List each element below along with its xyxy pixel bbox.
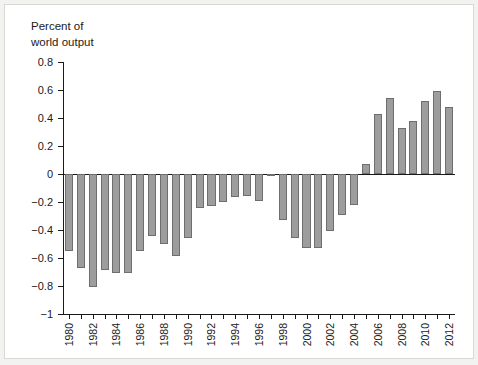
x-axis-tick <box>105 314 106 319</box>
bar <box>279 174 287 220</box>
x-axis-tick <box>295 314 296 319</box>
y-axis-line <box>63 62 64 314</box>
x-axis-tick <box>413 314 414 319</box>
x-axis-tick <box>425 314 426 319</box>
bar <box>267 174 275 176</box>
bar <box>314 174 322 248</box>
x-axis-label: 2006 <box>373 323 384 346</box>
bar <box>255 174 263 201</box>
x-axis-tick <box>283 314 284 319</box>
x-axis-tick <box>318 314 319 319</box>
bar <box>386 98 394 174</box>
x-axis-tick <box>223 314 224 319</box>
x-axis-label: 1990 <box>183 323 194 346</box>
x-axis-tick <box>378 314 379 319</box>
x-axis-tick <box>437 314 438 319</box>
y-axis-label: 0.8 <box>38 57 53 68</box>
bar <box>445 107 453 174</box>
bar <box>112 174 120 273</box>
x-axis-tick <box>81 314 82 319</box>
y-axis-tick <box>58 286 63 287</box>
x-axis-label: 1986 <box>135 323 146 346</box>
bar <box>172 174 180 256</box>
x-axis-tick <box>366 314 367 319</box>
y-axis-tick <box>58 230 63 231</box>
bar <box>374 114 382 174</box>
bar <box>136 174 144 251</box>
x-axis-tick <box>449 314 450 319</box>
x-axis-tick <box>164 314 165 319</box>
x-axis-label: 1996 <box>254 323 265 346</box>
x-axis-label: 1984 <box>111 323 122 346</box>
y-axis-label: 0.2 <box>38 141 53 152</box>
x-axis-tick <box>188 314 189 319</box>
bar <box>398 128 406 174</box>
bar <box>160 174 168 244</box>
x-axis-tick <box>176 314 177 319</box>
x-axis-tick <box>330 314 331 319</box>
x-axis-tick <box>69 314 70 319</box>
x-axis-tick <box>271 314 272 319</box>
x-axis-tick <box>390 314 391 319</box>
x-axis-tick <box>200 314 201 319</box>
x-axis-tick <box>354 314 355 319</box>
y-axis-label: 0 <box>47 169 53 180</box>
bar <box>409 121 417 174</box>
y-axis-tick <box>58 174 63 175</box>
y-axis-label: −0.4 <box>31 225 53 236</box>
bar <box>184 174 192 238</box>
y-axis-tick <box>58 258 63 259</box>
x-axis-label: 2000 <box>302 323 313 346</box>
y-axis-label: 0.6 <box>38 85 53 96</box>
x-axis-label: 1980 <box>64 323 75 346</box>
bar <box>243 174 251 196</box>
y-axis-tick <box>58 118 63 119</box>
bar <box>421 101 429 175</box>
chart-figure: Percent of world output 0.80.60.40.20−0.… <box>0 0 478 365</box>
bar <box>350 174 358 205</box>
x-axis-label: 1994 <box>230 323 241 346</box>
bar <box>219 174 227 202</box>
x-axis-tick <box>140 314 141 319</box>
bar <box>433 91 441 174</box>
x-axis-tick <box>211 314 212 319</box>
x-axis-tick <box>93 314 94 319</box>
y-axis-title: Percent of world output <box>31 19 94 50</box>
x-axis-label: 2012 <box>444 323 455 346</box>
bar <box>362 164 370 175</box>
y-axis-label: −1 <box>40 309 53 320</box>
bar <box>231 174 239 197</box>
y-axis-label: −0.2 <box>31 197 53 208</box>
bar <box>196 174 204 208</box>
x-axis-label: 2010 <box>420 323 431 346</box>
x-axis-tick <box>128 314 129 319</box>
x-axis-label: 1988 <box>159 323 170 346</box>
x-axis-tick <box>247 314 248 319</box>
x-axis-tick <box>342 314 343 319</box>
x-axis-tick <box>402 314 403 319</box>
x-axis-tick <box>307 314 308 319</box>
bar <box>302 174 310 248</box>
y-axis-tick <box>58 146 63 147</box>
bar <box>148 174 156 236</box>
bar <box>326 174 334 231</box>
bar <box>77 174 85 268</box>
bar <box>124 174 132 273</box>
y-axis-tick <box>58 90 63 91</box>
x-axis-label: 2004 <box>349 323 360 346</box>
x-axis-label: 1992 <box>206 323 217 346</box>
x-axis-tick <box>259 314 260 319</box>
y-axis-label: −0.6 <box>31 253 53 264</box>
x-axis-tick <box>235 314 236 319</box>
bar <box>291 174 299 238</box>
x-axis-tick <box>116 314 117 319</box>
y-axis-label: −0.8 <box>31 281 53 292</box>
plot-area: 0.80.60.40.20−0.2−0.4−0.6−0.8−1 19801982… <box>63 62 455 314</box>
x-axis-tick <box>152 314 153 319</box>
x-axis-label: 1982 <box>88 323 99 346</box>
x-axis-label: 1998 <box>278 323 289 346</box>
y-axis-label: 0.4 <box>38 113 53 124</box>
x-axis-label: 2002 <box>325 323 336 346</box>
y-axis-tick <box>58 202 63 203</box>
y-axis-tick <box>58 314 63 315</box>
